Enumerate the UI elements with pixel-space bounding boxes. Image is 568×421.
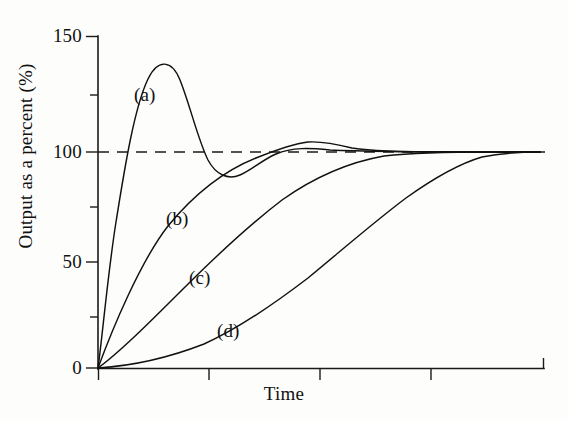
y-axis-title: Output as a percent (%) [15, 6, 37, 306]
y-axis-title-wrapper: Output as a percent (%) [15, 6, 43, 306]
curve-d [98, 152, 540, 368]
curve-c [98, 152, 540, 368]
x-axis-title: Time [0, 383, 568, 405]
curve-a [98, 64, 540, 368]
curve-label-d: (d) [217, 320, 239, 342]
curve-label-c: (c) [189, 267, 210, 289]
chart-canvas [0, 0, 568, 421]
curve-label-a: (a) [134, 84, 155, 106]
curve-b [98, 142, 540, 368]
step-response-figure: 150 100 50 0 (a) (b) (c) (d) Time Output… [0, 0, 568, 421]
y-tick-label-0: 0 [30, 357, 82, 379]
curve-label-b: (b) [166, 208, 188, 230]
